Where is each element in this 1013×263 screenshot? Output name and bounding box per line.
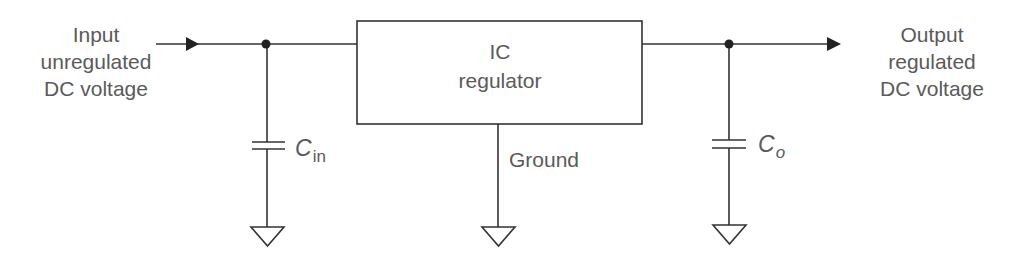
output-arrow-icon: [827, 37, 841, 51]
regulator-ground-icon: [482, 227, 515, 246]
ic-regulator-label: IC regulator: [400, 38, 600, 94]
input-arrow-icon: [186, 37, 199, 51]
cin-label: Cin: [295, 135, 326, 162]
input-label-line2: unregulated: [28, 48, 164, 75]
ground-label: Ground: [509, 146, 579, 173]
input-label: Input unregulated DC voltage: [28, 21, 164, 102]
co-label: Co: [758, 131, 785, 158]
output-label-line1: Output: [867, 21, 997, 48]
input-label-line3: DC voltage: [28, 75, 164, 102]
input-junction-dot: [262, 40, 271, 49]
ic-label-line2: regulator: [400, 67, 600, 94]
ic-label-line1: IC: [400, 38, 600, 65]
cin-symbol: C: [295, 135, 312, 161]
cin-subscript: in: [313, 147, 326, 166]
output-junction-dot: [725, 40, 734, 49]
co-symbol: C: [758, 131, 775, 157]
input-label-line1: Input: [28, 21, 164, 48]
output-label-line2: regulated: [867, 48, 997, 75]
cin-ground-icon: [251, 227, 284, 246]
co-ground-icon: [713, 225, 746, 244]
co-subscript: o: [776, 143, 785, 162]
output-label-line3: DC voltage: [867, 75, 997, 102]
output-label: Output regulated DC voltage: [867, 21, 997, 102]
regulator-diagram: Input unregulated DC voltage IC regulato…: [0, 0, 1013, 263]
